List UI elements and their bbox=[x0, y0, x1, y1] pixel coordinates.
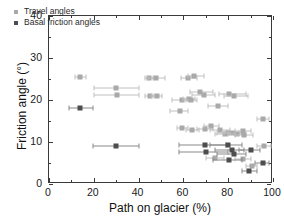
tick-mark bbox=[269, 37, 271, 38]
tick-mark bbox=[183, 16, 184, 20]
tick-mark bbox=[269, 163, 271, 164]
error-bar-cap bbox=[239, 148, 240, 153]
error-bar-cap bbox=[219, 92, 220, 97]
data-point bbox=[154, 94, 159, 99]
error-bar-cap bbox=[150, 94, 151, 99]
tick-mark bbox=[139, 16, 140, 20]
data-point bbox=[248, 148, 253, 153]
data-point bbox=[249, 163, 254, 168]
data-point bbox=[189, 98, 194, 103]
tick-mark bbox=[206, 180, 207, 182]
error-bar-cap bbox=[196, 127, 197, 132]
y-tick-label: 30 bbox=[30, 51, 42, 63]
error-bar-cap bbox=[172, 98, 173, 103]
error-bar-cap bbox=[255, 161, 256, 166]
tick-mark bbox=[49, 37, 51, 38]
error-bar-cap bbox=[185, 128, 186, 133]
error-bar-cap bbox=[268, 117, 269, 122]
tick-mark bbox=[269, 79, 271, 80]
data-point bbox=[178, 109, 183, 114]
error-bar-cap bbox=[217, 151, 218, 156]
tick-mark bbox=[267, 100, 271, 101]
error-bar-cap bbox=[208, 104, 209, 109]
data-point bbox=[113, 86, 118, 91]
tick-mark bbox=[49, 142, 53, 143]
legend-item-basal-friction-angles: Basal friction angles bbox=[14, 17, 100, 28]
x-tick-label: 20 bbox=[87, 186, 99, 198]
tick-mark bbox=[94, 178, 95, 182]
error-bar-cap bbox=[250, 129, 251, 134]
error-bar-cap bbox=[203, 74, 204, 79]
error-bar-cap bbox=[214, 148, 215, 153]
legend: Travel angles Basal friction angles bbox=[14, 6, 100, 28]
tick-mark bbox=[161, 180, 162, 182]
tick-mark bbox=[116, 180, 117, 182]
x-axis-label: Path on glacier (%) bbox=[48, 201, 272, 215]
error-bar-cap bbox=[181, 75, 182, 80]
error-bar-cap bbox=[93, 92, 94, 97]
data-point bbox=[260, 161, 265, 166]
data-point bbox=[180, 125, 185, 130]
tick-mark bbox=[116, 16, 117, 18]
error-bar-cap bbox=[212, 157, 213, 162]
error-bar-cap bbox=[248, 94, 249, 99]
tick-mark bbox=[228, 178, 229, 182]
error-bar-cap bbox=[259, 148, 260, 153]
error-bar-cap bbox=[214, 131, 215, 136]
error-bar-cap bbox=[210, 142, 211, 147]
error-bar-cap bbox=[257, 144, 258, 149]
error-bar-cap bbox=[223, 131, 224, 136]
error-bar-cap bbox=[241, 169, 242, 174]
y-tick-label: 0 bbox=[36, 177, 42, 189]
tick-mark bbox=[267, 184, 271, 185]
x-tick-label: 80 bbox=[221, 186, 233, 198]
data-point bbox=[262, 144, 267, 149]
legend-label-basal-friction-angles: Basal friction angles bbox=[24, 17, 100, 28]
error-bar-cap bbox=[138, 92, 139, 97]
legend-swatch-travel-angles bbox=[14, 10, 18, 14]
tick-mark bbox=[269, 121, 271, 122]
error-bar-cap bbox=[138, 86, 139, 91]
error-bar-cap bbox=[138, 144, 139, 149]
tick-mark bbox=[251, 16, 252, 18]
legend-item-travel-angles: Travel angles bbox=[14, 6, 100, 17]
tick-mark bbox=[139, 178, 140, 182]
tick-mark bbox=[49, 178, 50, 182]
error-bar-cap bbox=[205, 156, 206, 161]
tick-mark bbox=[49, 79, 51, 80]
legend-label-travel-angles: Travel angles bbox=[24, 6, 75, 17]
error-bar-cap bbox=[223, 94, 224, 99]
tick-mark bbox=[267, 58, 271, 59]
error-bar-cap bbox=[183, 96, 184, 101]
y-axis-label: Friction angle (°) bbox=[15, 26, 29, 186]
tick-mark bbox=[71, 180, 72, 182]
error-bar-cap bbox=[203, 124, 204, 129]
data-point bbox=[226, 142, 231, 147]
data-point bbox=[114, 92, 119, 97]
tick-mark bbox=[183, 178, 184, 182]
tick-mark bbox=[267, 16, 271, 17]
error-bar-cap bbox=[145, 75, 146, 80]
error-bar-cap bbox=[187, 74, 188, 79]
error-bar-cap bbox=[192, 92, 193, 97]
data-point bbox=[77, 106, 82, 111]
error-bar-cap bbox=[246, 151, 247, 156]
x-tick-label: 40 bbox=[132, 186, 144, 198]
error-bar-cap bbox=[228, 131, 229, 136]
error-bar-cap bbox=[214, 92, 215, 97]
tick-mark bbox=[206, 16, 207, 18]
error-bar-cap bbox=[145, 93, 146, 98]
error-bar-cap bbox=[178, 143, 179, 148]
tick-mark bbox=[273, 178, 274, 182]
y-tick-label: 20 bbox=[30, 93, 42, 105]
tick-mark bbox=[228, 16, 229, 20]
friction-angle-scatter-figure: 020406080100 010203040 Path on glacier (… bbox=[0, 0, 284, 221]
error-bar-cap bbox=[169, 109, 170, 114]
error-bar-cap bbox=[69, 106, 70, 111]
error-bar-cap bbox=[228, 104, 229, 109]
data-point bbox=[203, 149, 208, 154]
y-tick-label: 10 bbox=[30, 135, 42, 147]
x-tick-label: 100 bbox=[263, 186, 281, 198]
tick-mark bbox=[251, 180, 252, 182]
error-bar-cap bbox=[217, 130, 218, 135]
